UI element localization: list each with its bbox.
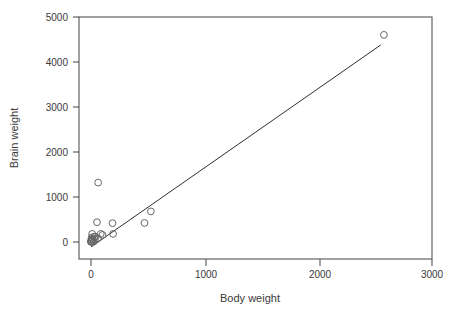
data-point — [109, 220, 116, 227]
x-axis-tick-labels: 0 1000 2000 3000 — [88, 269, 443, 280]
data-point — [95, 179, 102, 186]
x-tick-label-3000: 3000 — [421, 269, 444, 280]
x-tick-label-1000: 1000 — [195, 269, 218, 280]
y-tick-label-3000: 3000 — [46, 102, 69, 113]
y-tick-label-4000: 4000 — [46, 57, 69, 68]
plot-frame — [79, 17, 432, 259]
y-axis-title: Brain weight — [8, 108, 20, 169]
y-axis-tick-labels: 5000 4000 3000 2000 1000 0 — [46, 12, 69, 248]
x-tick-label-0: 0 — [88, 269, 94, 280]
y-tick-label-5000: 5000 — [46, 12, 69, 23]
fit-line-group — [91, 45, 381, 247]
y-tick-label-1000: 1000 — [46, 192, 69, 203]
scatter-plot-figure: 5000 4000 3000 2000 1000 0 0 1000 2000 3… — [0, 0, 453, 318]
data-point — [94, 219, 101, 226]
data-point — [381, 31, 388, 38]
y-tick-label-0: 0 — [62, 237, 68, 248]
x-axis-title: Body weight — [220, 292, 280, 304]
data-point — [141, 220, 148, 227]
x-tick-label-2000: 2000 — [309, 269, 332, 280]
data-point — [148, 208, 155, 215]
y-tick-label-2000: 2000 — [46, 147, 69, 158]
x-axis-ticks — [91, 259, 432, 266]
y-axis-ticks — [73, 17, 79, 242]
regression-line — [91, 45, 381, 247]
plot-canvas: 5000 4000 3000 2000 1000 0 0 1000 2000 3… — [0, 0, 453, 318]
scatter-markers — [88, 31, 388, 245]
